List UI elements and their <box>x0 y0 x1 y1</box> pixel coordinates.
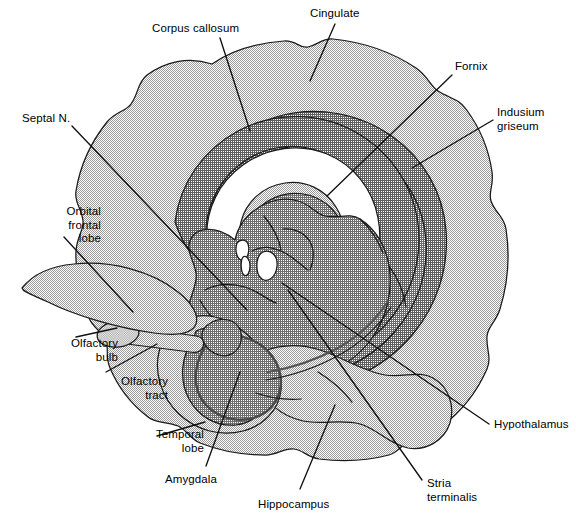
ventricle-oval-white <box>257 251 277 280</box>
label-orbital-frontal-lobe: Orbital frontal lobe <box>5 205 101 246</box>
label-olfactory-bulb: Olfactory bulb <box>22 337 118 364</box>
label-temporal-lobe: Temporal lobe <box>108 428 204 455</box>
label-stria-terminalis: Stria terminalis <box>427 477 477 504</box>
brain-limbic-system-illustration <box>0 0 576 521</box>
label-amygdala: Amygdala <box>165 473 217 487</box>
label-hypothalamus: Hypothalamus <box>494 418 569 432</box>
label-hippocampus: Hippocampus <box>258 498 329 512</box>
label-corpus-callosum: Corpus callosum <box>152 22 239 36</box>
ventricle-slit-left <box>241 256 250 275</box>
label-septal-n: Septal N. <box>22 112 70 126</box>
label-olfactory-tract: Olfactory tract <box>72 375 168 402</box>
label-fornix: Fornix <box>455 60 488 74</box>
diagram-canvas: Corpus callosumCingulateFornixIndusium g… <box>0 0 576 521</box>
label-indusium-griseum: Indusium griseum <box>497 106 544 133</box>
label-cingulate: Cingulate <box>310 7 360 21</box>
